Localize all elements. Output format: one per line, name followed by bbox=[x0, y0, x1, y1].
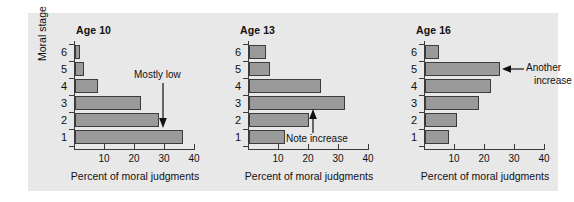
x-axis-title-1: Percent of moral judgments bbox=[40, 170, 230, 182]
bar-1-stage-4 bbox=[75, 79, 98, 93]
x-tick-1-20 bbox=[134, 144, 135, 150]
y-label-3-2: 2 bbox=[405, 113, 417, 127]
panel-title-age-13: Age 13 bbox=[240, 24, 275, 36]
chart-panel-age-13: Age 13 6 5 4 3 2 1 bbox=[204, 13, 380, 191]
x-tick-3-10 bbox=[454, 144, 455, 150]
y-tick-2-0 bbox=[243, 146, 249, 147]
x-tick-1-40 bbox=[194, 144, 195, 150]
x-label-2-10: 10 bbox=[268, 153, 288, 164]
chart-panel-age-16: Age 16 6 5 4 3 2 1 bbox=[380, 13, 556, 191]
annotation-label-3-line1: Another bbox=[526, 62, 561, 74]
y-tick-1-2 bbox=[69, 112, 75, 113]
x-tick-1-10 bbox=[104, 144, 105, 150]
x-label-1-30: 30 bbox=[154, 153, 174, 164]
x-tick-2-10 bbox=[278, 144, 279, 150]
y-label-1-5: 5 bbox=[55, 62, 67, 76]
annotation-label-3-line2: increase bbox=[534, 75, 572, 87]
x-label-1-40: 40 bbox=[184, 153, 204, 164]
y-tick-2-2 bbox=[243, 112, 249, 113]
y-tick-3-0 bbox=[419, 146, 425, 147]
x-label-3-10: 10 bbox=[444, 153, 464, 164]
bar-1-stage-2 bbox=[75, 113, 159, 127]
y-tick-2-3 bbox=[243, 95, 249, 96]
bar-1-stage-5 bbox=[75, 62, 84, 76]
x-tick-2-40 bbox=[368, 144, 369, 150]
x-tick-3-20 bbox=[484, 144, 485, 150]
bar-1-stage-6 bbox=[75, 45, 80, 59]
y-label-1-4: 4 bbox=[55, 79, 67, 93]
x-label-1-20: 20 bbox=[124, 153, 144, 164]
y-tick-2-5 bbox=[243, 61, 249, 62]
x-tick-1-30 bbox=[164, 144, 165, 150]
bar-3-stage-2 bbox=[425, 113, 457, 127]
y-tick-2-6 bbox=[243, 44, 249, 45]
y-tick-1-4 bbox=[69, 78, 75, 79]
plot-area-1: 6 5 4 3 2 1 10 20 30 40 Percent of moral… bbox=[74, 43, 194, 143]
y-label-3-4: 4 bbox=[405, 79, 417, 93]
y-axis-title-1: Moral stage bbox=[36, 6, 48, 61]
y-tick-1-0 bbox=[69, 146, 75, 147]
y-tick-1-6 bbox=[69, 44, 75, 45]
bar-2-stage-5 bbox=[249, 62, 270, 76]
bar-1-stage-1 bbox=[75, 130, 183, 144]
y-label-3-3: 3 bbox=[405, 96, 417, 110]
y-label-1-6: 6 bbox=[55, 45, 67, 59]
x-axis-title-2: Percent of moral judgments bbox=[214, 170, 404, 182]
bar-3-stage-3 bbox=[425, 96, 479, 110]
x-label-2-20: 20 bbox=[298, 153, 318, 164]
plot-area-2: 6 5 4 3 2 1 10 20 30 40 Percent of moral… bbox=[248, 43, 368, 143]
annotation-arrow-left-3 bbox=[502, 64, 524, 74]
bar-2-stage-1 bbox=[249, 130, 285, 144]
bar-2-stage-3 bbox=[249, 96, 345, 110]
bar-2-stage-4 bbox=[249, 79, 321, 93]
x-tick-3-30 bbox=[514, 144, 515, 150]
x-label-1-10: 10 bbox=[94, 153, 114, 164]
y-label-2-1: 1 bbox=[229, 130, 241, 144]
bar-2-stage-6 bbox=[249, 45, 266, 59]
y-label-1-1: 1 bbox=[55, 130, 67, 144]
bar-3-stage-1 bbox=[425, 130, 449, 144]
y-label-3-5: 5 bbox=[405, 62, 417, 76]
x-axis-title-3: Percent of moral judgments bbox=[390, 170, 574, 182]
plot-area-3: 6 5 4 3 2 1 10 20 30 40 Percent of moral… bbox=[424, 43, 544, 143]
y-label-1-2: 2 bbox=[55, 113, 67, 127]
y-tick-1-3 bbox=[69, 95, 75, 96]
annotation-arrow-down-1 bbox=[158, 83, 168, 129]
y-tick-3-6 bbox=[419, 44, 425, 45]
y-tick-3-3 bbox=[419, 95, 425, 96]
y-label-3-6: 6 bbox=[405, 45, 417, 59]
y-tick-3-5 bbox=[419, 61, 425, 62]
x-tick-3-40 bbox=[544, 144, 545, 150]
bar-3-stage-4 bbox=[425, 79, 491, 93]
y-label-3-1: 1 bbox=[405, 130, 417, 144]
bar-1-stage-3 bbox=[75, 96, 141, 110]
bar-3-stage-6 bbox=[425, 45, 439, 59]
figure-panel: Age 10 Moral stage 6 5 4 3 2 1 bbox=[28, 13, 558, 191]
panel-title-age-16: Age 16 bbox=[416, 24, 451, 36]
y-tick-3-4 bbox=[419, 78, 425, 79]
y-label-1-3: 3 bbox=[55, 96, 67, 110]
y-tick-3-1 bbox=[419, 129, 425, 130]
x-label-2-40: 40 bbox=[358, 153, 378, 164]
panel-title-age-10: Age 10 bbox=[76, 24, 111, 36]
annotation-label-2: Note increase bbox=[286, 133, 348, 145]
y-label-2-6: 6 bbox=[229, 45, 241, 59]
x-label-3-20: 20 bbox=[474, 153, 494, 164]
y-label-2-4: 4 bbox=[229, 79, 241, 93]
y-tick-3-2 bbox=[419, 112, 425, 113]
x-label-2-30: 30 bbox=[328, 153, 348, 164]
annotation-label-1: Mostly low bbox=[134, 69, 181, 81]
y-label-2-3: 3 bbox=[229, 96, 241, 110]
x-tick-2-30 bbox=[338, 144, 339, 150]
x-label-3-40: 40 bbox=[534, 153, 554, 164]
bar-3-stage-5 bbox=[425, 62, 500, 76]
y-tick-1-1 bbox=[69, 129, 75, 130]
annotation-arrow-up-2 bbox=[308, 109, 318, 133]
x-label-3-30: 30 bbox=[504, 153, 524, 164]
chart-panel-age-10: Age 10 Moral stage 6 5 4 3 2 1 bbox=[28, 13, 204, 191]
y-label-2-2: 2 bbox=[229, 113, 241, 127]
y-tick-1-5 bbox=[69, 61, 75, 62]
bar-2-stage-2 bbox=[249, 113, 309, 127]
y-label-2-5: 5 bbox=[229, 62, 241, 76]
x-tick-2-20 bbox=[308, 144, 309, 150]
